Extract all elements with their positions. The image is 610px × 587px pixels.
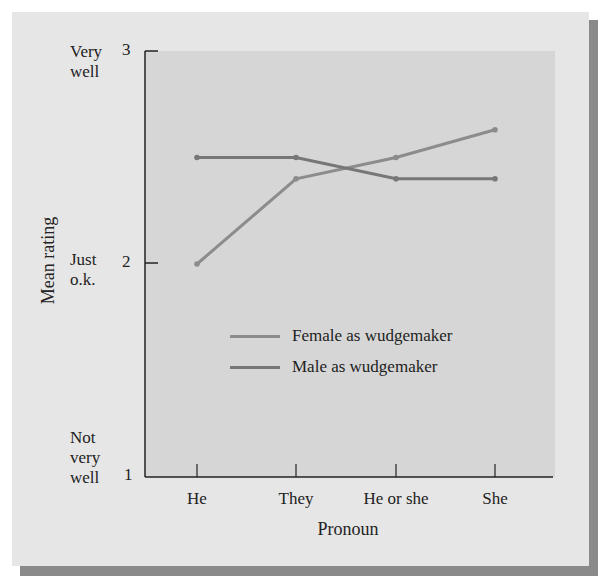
y-desc-line: Very xyxy=(70,42,102,62)
series-line-female xyxy=(197,130,495,264)
legend-item-male: Male as wudgemaker xyxy=(230,357,437,377)
y-desc-not-very-well: Not very well xyxy=(70,428,100,488)
data-point-marker xyxy=(492,176,498,182)
data-point-marker xyxy=(293,155,299,161)
x-tick-label-he: He xyxy=(147,489,247,509)
x-tick-label-they: They xyxy=(246,489,346,509)
y-desc-very-well: Very well xyxy=(70,42,102,82)
x-axis-label: Pronoun xyxy=(248,519,448,540)
data-point-marker xyxy=(194,155,200,161)
data-point-marker xyxy=(393,155,399,161)
legend-label-female: Female as wudgemaker xyxy=(292,326,453,346)
data-point-marker xyxy=(492,127,498,133)
y-desc-line: well xyxy=(70,468,100,488)
legend-swatch-male xyxy=(230,366,280,369)
y-desc-line: Not xyxy=(70,428,100,448)
legend-label-male: Male as wudgemaker xyxy=(292,357,437,377)
y-tick-label-3: 3 xyxy=(122,40,131,60)
y-tick-label-2: 2 xyxy=(122,252,131,272)
legend-swatch-female xyxy=(230,335,280,338)
y-desc-line: well xyxy=(70,62,102,82)
y-tick-label-1: 1 xyxy=(124,465,133,485)
legend-item-female: Female as wudgemaker xyxy=(230,326,453,346)
y-desc-line: Just xyxy=(70,250,96,270)
y-axis-label: Mean rating xyxy=(38,191,59,331)
x-tick-label-she: She xyxy=(445,489,545,509)
x-tick-label-he-or-she: He or she xyxy=(346,489,446,509)
data-point-marker xyxy=(194,261,200,267)
y-desc-line: o.k. xyxy=(70,270,96,290)
series-layer xyxy=(194,127,498,267)
data-point-marker xyxy=(393,176,399,182)
y-desc-line: very xyxy=(70,448,100,468)
data-point-marker xyxy=(293,176,299,182)
series-line-male xyxy=(197,158,495,179)
y-desc-just-ok: Just o.k. xyxy=(70,250,96,290)
